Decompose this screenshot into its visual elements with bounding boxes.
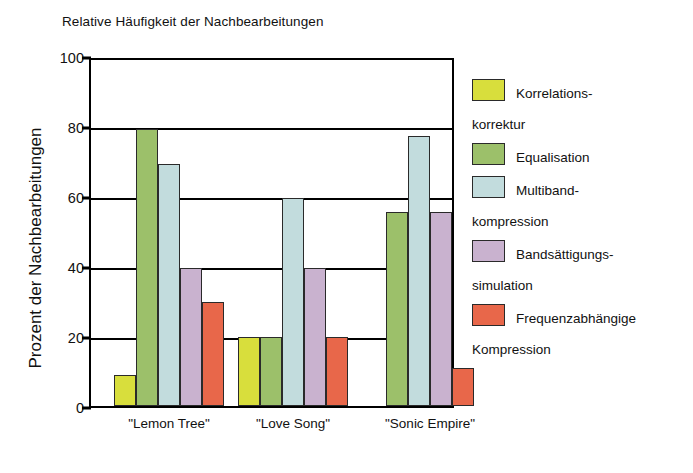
chart-legend: Korrelations-korrekturEqualisationMultib… [472, 78, 687, 367]
y-axis-title: Prozent der Nachbearbeitungen [26, 83, 46, 413]
legend-item[interactable]: Bandsättigungs-simulation [472, 239, 687, 301]
legend-label-line2: korrektur [472, 109, 687, 140]
bar [202, 302, 224, 406]
legend-item[interactable]: FrequenzabhängigeKompression [472, 303, 687, 365]
bar [326, 337, 348, 406]
legend-item[interactable]: Multiband-kompression [472, 175, 687, 237]
bar [158, 164, 180, 406]
legend-label-line2: simulation [472, 270, 687, 301]
bar [430, 212, 452, 406]
x-axis-label: "Sonic Empire" [385, 416, 475, 431]
plot-area [89, 58, 454, 408]
legend-swatch-icon [472, 240, 505, 262]
y-tick-label-80: 80 [46, 120, 84, 136]
legend-label-line2: kompression [472, 206, 687, 237]
bar [282, 198, 304, 406]
bar [238, 337, 260, 406]
legend-label-line2: Kompression [472, 334, 687, 365]
x-axis-label: "Lemon Tree" [128, 416, 210, 431]
legend-swatch-icon [472, 143, 505, 165]
bar [180, 268, 202, 406]
bar [114, 375, 136, 406]
bar [260, 337, 282, 406]
bar [386, 212, 408, 406]
y-tick-label-20: 20 [46, 330, 84, 346]
bar [304, 268, 326, 406]
legend-label: Equalisation [516, 150, 590, 165]
chart-figure: Relative Häufigkeit der Nachbearbeitunge… [0, 0, 693, 473]
x-axis-label: "Love Song" [256, 416, 330, 431]
chart-title: Relative Häufigkeit der Nachbearbeitunge… [62, 14, 324, 29]
bar [408, 136, 430, 406]
legend-item[interactable]: Equalisation [472, 142, 687, 173]
y-tick-label-100: 100 [46, 50, 84, 66]
y-tick-label-40: 40 [46, 260, 84, 276]
legend-swatch-icon [472, 304, 505, 326]
y-tick-label-0: 0 [46, 400, 84, 416]
legend-swatch-icon [472, 176, 505, 198]
bar [452, 368, 474, 406]
y-tick-label-60: 60 [46, 190, 84, 206]
legend-item[interactable]: Korrelations-korrektur [472, 78, 687, 140]
legend-swatch-icon [472, 79, 505, 101]
bar [136, 129, 158, 406]
